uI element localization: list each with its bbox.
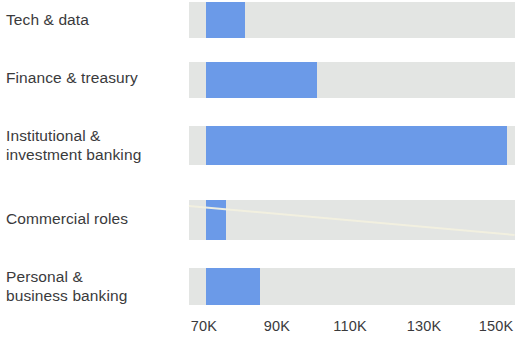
bar-track — [189, 62, 515, 98]
x-axis-tick-label: 70K — [191, 318, 217, 334]
x-axis-tick-label: 130K — [407, 318, 442, 334]
bar-fill — [206, 126, 507, 165]
bar-track — [189, 2, 515, 38]
bar-fill — [206, 2, 245, 38]
category-label: Commercial roles — [6, 209, 128, 228]
category-label: Personal & business banking — [6, 267, 127, 305]
horizontal-bar-chart: Tech & data Finance & treasury Instituti… — [0, 0, 515, 344]
bar-fill — [206, 268, 260, 305]
x-axis-tick-label: 110K — [333, 318, 367, 334]
bar-track — [189, 268, 515, 305]
x-axis-tick-label: 90K — [264, 318, 290, 334]
bar-track — [189, 126, 515, 165]
category-label: Finance & treasury — [6, 68, 138, 87]
bar-fill — [206, 200, 226, 240]
x-axis-tick-label: 150K — [479, 318, 514, 334]
bar-track — [189, 200, 515, 240]
x-axis: 70K90K110K130K150K — [0, 318, 515, 344]
category-label: Tech & data — [6, 10, 89, 29]
bar-fill — [206, 62, 317, 98]
category-label: Institutional & investment banking — [6, 126, 141, 164]
